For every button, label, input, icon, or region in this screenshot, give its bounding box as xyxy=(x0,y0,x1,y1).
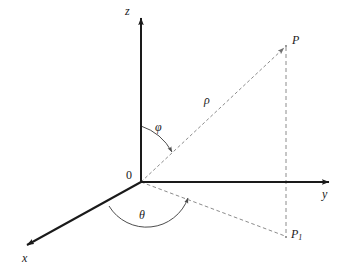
axis-x xyxy=(27,182,141,245)
point-P-dot xyxy=(285,45,287,47)
segment-rho-line xyxy=(141,48,284,182)
axis-label-z: z xyxy=(125,5,130,17)
axis-label-y: y xyxy=(322,188,327,200)
coordinate-axes xyxy=(27,18,329,245)
rho-label: ρ xyxy=(204,94,210,106)
segment-origin-to-p1 xyxy=(141,182,285,236)
point-P1-dot xyxy=(285,236,287,238)
axis-label-x: x xyxy=(22,252,27,264)
theta-arc xyxy=(109,198,188,227)
point-label-P1: P1 xyxy=(291,228,302,242)
angle-arcs xyxy=(109,126,188,227)
phi-angle-label: φ xyxy=(155,121,162,133)
theta-angle-label: θ xyxy=(139,209,145,221)
point-label-P: P xyxy=(292,34,299,46)
construction-lines xyxy=(141,47,286,236)
spherical-coordinates-diagram: z y x 0 P P1 ρ φ θ xyxy=(0,0,347,276)
point-label-P1-subscript: 1 xyxy=(298,233,302,242)
origin-label: 0 xyxy=(126,169,132,181)
